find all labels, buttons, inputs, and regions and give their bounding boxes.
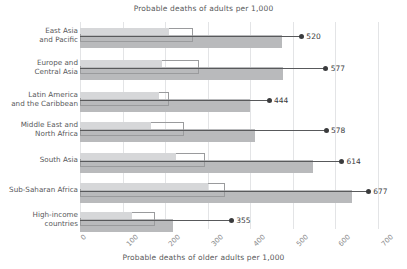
- marker-dot: [339, 159, 344, 164]
- y-axis-label-line: North Africa: [0, 129, 78, 139]
- marker-value-label: 577: [331, 64, 345, 73]
- bar-adults-fill: [80, 60, 162, 66]
- y-axis-label-line: East Asia: [0, 26, 78, 36]
- y-axis-label-line: South Asia: [0, 155, 78, 165]
- y-axis-label-line: Central Asia: [0, 67, 78, 77]
- y-axis-label-line: Sub-Saharan Africa: [0, 185, 78, 195]
- y-axis-label-line: countries: [0, 219, 78, 229]
- marker-dot: [324, 128, 329, 133]
- marker-line: [80, 100, 269, 101]
- marker-value-label: 614: [346, 157, 360, 166]
- y-axis-label-0: East Asiaand Pacific: [0, 26, 78, 45]
- marker-line: [80, 130, 326, 131]
- gridline: [378, 22, 379, 229]
- chart-title: Probable deaths of adults per 1,000: [0, 4, 407, 13]
- y-axis-label-3: Middle East andNorth Africa: [0, 120, 78, 139]
- y-axis-label-5: Sub-Saharan Africa: [0, 185, 78, 195]
- x-tick-0: 0: [79, 233, 88, 242]
- x-tick-200: 200: [167, 233, 182, 248]
- x-tick-600: 600: [337, 233, 352, 248]
- marker-dot: [229, 218, 234, 223]
- x-tick-100: 100: [124, 233, 139, 248]
- x-axis-label: Probable deaths of older adults per 1,00…: [0, 253, 407, 262]
- marker-value-label: 444: [274, 96, 288, 105]
- marker-line: [80, 36, 301, 37]
- plot-area: 520577444578614677355: [80, 22, 378, 229]
- x-tick-400: 400: [252, 233, 267, 248]
- marker-line: [80, 191, 368, 192]
- bar-adults-fill: [80, 212, 132, 218]
- y-axis-label-line: and the Caribbean: [0, 99, 78, 109]
- marker-line: [80, 68, 326, 69]
- marker-dot: [267, 98, 272, 103]
- marker-dot: [299, 34, 304, 39]
- y-axis-label-line: High-income: [0, 210, 78, 220]
- y-axis-label-4: South Asia: [0, 155, 78, 165]
- y-axis-label-line: Latin America: [0, 90, 78, 100]
- x-tick-700: 700: [380, 233, 395, 248]
- y-axis-label-6: High-incomecountries: [0, 210, 78, 229]
- x-tick-500: 500: [295, 233, 310, 248]
- bar-adults-fill: [80, 183, 208, 189]
- y-axis-label-2: Latin Americaand the Caribbean: [0, 90, 78, 109]
- marker-value-label: 578: [331, 126, 345, 135]
- marker-line: [80, 161, 341, 162]
- marker-dot: [366, 189, 371, 194]
- y-axis-label-line: and Pacific: [0, 35, 78, 45]
- y-axis-label-line: Europe and: [0, 58, 78, 68]
- bar-adults-fill: [80, 122, 151, 128]
- y-axis-label-line: Middle East and: [0, 120, 78, 130]
- x-tick-300: 300: [210, 233, 225, 248]
- marker-dot: [323, 66, 328, 71]
- bar-adults-fill: [80, 92, 159, 98]
- bar-adults-fill: [80, 153, 176, 159]
- marker-value-label: 355: [236, 216, 250, 225]
- bar-adults-fill: [80, 28, 169, 34]
- marker-value-label: 520: [306, 32, 320, 41]
- y-axis-label-1: Europe andCentral Asia: [0, 58, 78, 77]
- marker-value-label: 677: [373, 187, 387, 196]
- chart-container: Probable deaths of adults per 1,000 5205…: [0, 0, 407, 269]
- marker-line: [80, 220, 231, 221]
